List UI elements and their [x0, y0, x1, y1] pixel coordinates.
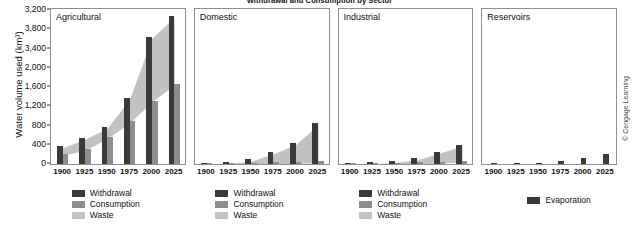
bar-evaporation: [581, 158, 587, 164]
legend-swatch-consumption: [72, 201, 85, 208]
legend-swatch-withdrawal: [359, 190, 372, 197]
y-tick-label: 3,400: [25, 43, 46, 53]
bar-consumption: [439, 162, 445, 164]
bar-evaporation: [603, 154, 609, 164]
figure: Withdrawal and Consumption by Sector Wat…: [0, 0, 639, 225]
bar-evaporation: [536, 163, 542, 164]
bar-consumption: [63, 154, 69, 164]
x-tick-label: 1900: [53, 167, 71, 176]
legend-label: Consumption: [377, 200, 427, 210]
legend-item: Consumption: [72, 200, 140, 210]
legend-label: Waste: [377, 211, 401, 221]
x-tick-label: 2025: [596, 167, 614, 176]
x-tick-label: 1975: [551, 167, 569, 176]
bar-consumption: [462, 161, 468, 164]
bar-withdrawal: [268, 152, 274, 164]
legend-item: Withdrawal: [215, 189, 283, 199]
x-axis-ticks: 1900192519501975200020251900192519501975…: [50, 167, 617, 179]
x-tick-label: 2000: [286, 167, 304, 176]
legend-swatch-waste: [215, 212, 228, 219]
bar-withdrawal: [290, 143, 296, 164]
bar-withdrawal: [389, 161, 395, 164]
bar-withdrawal: [79, 138, 85, 164]
legend-item: Withdrawal: [359, 189, 427, 199]
x-tick-label: 2000: [142, 167, 160, 176]
bar-consumption: [318, 161, 324, 164]
bar-consumption: [395, 163, 401, 164]
waste-band: [339, 9, 474, 165]
bar-consumption: [85, 149, 91, 164]
chart-title: Withdrawal and Consumption by Sector: [0, 0, 639, 5]
x-tick-label: 2025: [452, 167, 470, 176]
bar-consumption: [251, 163, 257, 164]
copyright-credit: © Cengage Learning: [622, 64, 629, 154]
legend-item: Waste: [72, 211, 140, 221]
panel-title: Industrial: [344, 12, 381, 22]
x-tick-label: 1900: [341, 167, 359, 176]
x-tick-label: 2025: [308, 167, 326, 176]
panel-industrial: Industrial: [338, 8, 474, 165]
bar-consumption: [129, 121, 135, 164]
bar-withdrawal: [201, 163, 207, 164]
bar-withdrawal: [146, 37, 152, 164]
y-tick-label: 0: [41, 158, 46, 168]
legend-swatch-evaporation: [527, 197, 540, 204]
x-tick-label: 2025: [165, 167, 183, 176]
legend-domestic: WithdrawalConsumptionWaste: [215, 189, 283, 222]
legend-label: Consumption: [233, 200, 283, 210]
panel-title: Agricultural: [56, 12, 101, 22]
legend-label: Evaporation: [545, 196, 590, 206]
x-tick-label: 1925: [219, 167, 237, 176]
y-tick-label: 2,000: [25, 62, 46, 72]
x-tick-label: 1900: [484, 167, 502, 176]
bar-consumption: [350, 163, 356, 164]
legend-swatch-withdrawal: [72, 190, 85, 197]
x-tick-label: 1950: [98, 167, 116, 176]
bar-withdrawal: [124, 98, 130, 164]
waste-area: [63, 18, 175, 156]
bar-withdrawal: [367, 162, 373, 164]
bar-consumption: [295, 162, 301, 164]
waste-band: [195, 9, 330, 165]
y-tick-label: 1,600: [25, 81, 46, 91]
bar-evaporation: [514, 163, 520, 164]
panel-reservoirs: Reservoirs: [481, 8, 617, 165]
legend-reservoirs: Evaporation: [527, 196, 590, 207]
bar-consumption: [206, 163, 212, 164]
bar-withdrawal: [411, 158, 417, 164]
bar-consumption: [229, 163, 235, 164]
x-tick-label: 2000: [430, 167, 448, 176]
y-axis-ticks: 3,2003,8003,4002,0001,6001,2008004000: [12, 8, 50, 164]
legend-item: Consumption: [359, 200, 427, 210]
plot-area: [339, 9, 473, 164]
panel-row: AgriculturalDomesticIndustrialReservoirs: [50, 8, 617, 165]
bar-evaporation: [558, 161, 564, 164]
x-tick-label: 2000: [574, 167, 592, 176]
bar-withdrawal: [245, 159, 251, 164]
x-tick-label: 1950: [529, 167, 547, 176]
bar-consumption: [417, 162, 423, 164]
panel-title: Reservoirs: [487, 12, 530, 22]
bar-consumption: [107, 137, 113, 164]
y-tick-label: 3,200: [25, 4, 46, 14]
legend-item: Withdrawal: [72, 189, 140, 199]
bar-withdrawal: [434, 152, 440, 164]
legend-label: Consumption: [90, 200, 140, 210]
x-tick-label: 1975: [264, 167, 282, 176]
plot-area: [51, 9, 185, 164]
bar-consumption: [372, 163, 378, 164]
legend-swatch-consumption: [359, 201, 372, 208]
x-tick-label: 1975: [408, 167, 426, 176]
legend-item: Consumption: [215, 200, 283, 210]
x-tick-label: 1925: [76, 167, 94, 176]
waste-band: [51, 9, 186, 165]
legend-label: Withdrawal: [377, 189, 419, 199]
legend-agricultural: WithdrawalConsumptionWaste: [72, 189, 140, 222]
bar-withdrawal: [169, 16, 175, 164]
bar-evaporation: [491, 163, 497, 164]
panel-domestic: Domestic: [194, 8, 330, 165]
legend-swatch-consumption: [215, 201, 228, 208]
legend-swatch-waste: [72, 212, 85, 219]
y-tick-label: 1,200: [25, 100, 46, 110]
legend-label: Waste: [90, 211, 114, 221]
